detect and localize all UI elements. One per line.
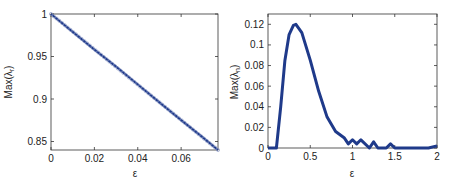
y-tick-label: 0 xyxy=(258,143,264,154)
left-y-axis-label: Max(λr) xyxy=(3,66,15,99)
x-tick-label: 0.5 xyxy=(303,151,317,162)
y-tick-label: 1 xyxy=(41,9,47,20)
x-tick-label: 1.5 xyxy=(388,151,402,162)
left-x-axis-label: ε xyxy=(133,168,138,179)
y-tick-label: 0.08 xyxy=(245,60,265,71)
y-tick-label: 0.12 xyxy=(245,19,265,30)
right-y-axis-label: Max(λn) xyxy=(229,65,241,99)
x-tick-label: 1 xyxy=(350,151,356,162)
x-tick-label: 0.04 xyxy=(128,153,148,164)
x-tick-label: 0 xyxy=(48,153,54,164)
right-chart: 00.511.5200.020.040.060.080.10.12 ε Max(… xyxy=(229,14,440,179)
left-chart: 00.020.040.060.850.90.951 ε Max(λr) xyxy=(3,9,220,180)
y-tick-label: 0.06 xyxy=(245,81,265,92)
y-tick-label: 0.1 xyxy=(250,39,264,50)
y-tick-label: 0.04 xyxy=(245,101,265,112)
left-series-line xyxy=(51,14,218,150)
y-tick-label: 0.02 xyxy=(245,122,265,133)
x-tick-label: 0 xyxy=(265,151,271,162)
x-tick-label: 2 xyxy=(434,151,440,162)
figure: 00.020.040.060.850.90.951 ε Max(λr) 00.5… xyxy=(0,0,451,182)
x-tick-label: 0.02 xyxy=(85,153,105,164)
right-plot-frame xyxy=(268,14,437,148)
y-tick-label: 0.9 xyxy=(33,94,47,105)
right-series-line xyxy=(268,24,437,148)
y-tick-label: 0.85 xyxy=(28,136,48,147)
y-tick-label: 0.95 xyxy=(28,51,48,62)
right-x-axis-label: ε xyxy=(350,168,355,179)
x-tick-label: 0.06 xyxy=(171,153,191,164)
